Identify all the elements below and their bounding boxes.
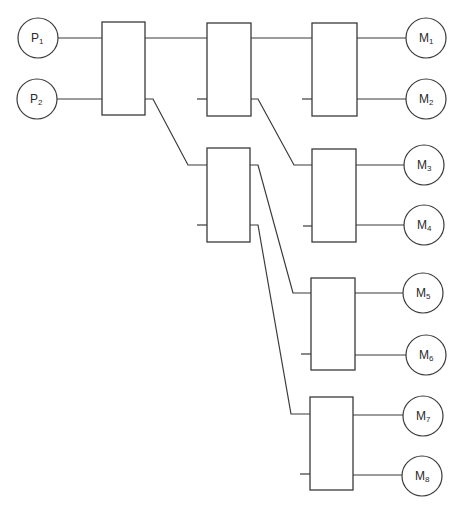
input-node-p2: P2	[17, 79, 57, 119]
output-node-m8: M8	[402, 456, 442, 496]
switch-box-s5	[312, 149, 356, 242]
switch-box-s6	[311, 278, 355, 370]
input-node-p1: P1	[18, 18, 58, 58]
switch-box-s4	[207, 148, 250, 242]
wire-s2-s5	[251, 99, 312, 165]
output-node-m7: M7	[403, 396, 443, 436]
switching-network-diagram: P1P2 M1M2M3M4M5M6M7M8	[0, 0, 466, 511]
switch-box-s1	[102, 22, 145, 115]
output-node-m6: M6	[406, 335, 446, 375]
output-node-m1: M1	[406, 18, 446, 58]
output-nodes: M1M2M3M4M5M6M7M8	[402, 18, 446, 496]
switch-boxes	[102, 22, 357, 490]
switch-box-s7	[310, 397, 353, 490]
output-node-m5: M5	[403, 273, 443, 313]
output-node-m4: M4	[404, 205, 444, 245]
switch-box-s3	[312, 23, 357, 116]
wire-s4-s7	[250, 225, 310, 414]
input-nodes: P1P2	[17, 18, 58, 119]
wire-s1-s4	[145, 99, 207, 165]
output-node-m3: M3	[404, 145, 444, 185]
switch-box-s2	[207, 23, 251, 116]
output-node-m2: M2	[406, 79, 446, 119]
